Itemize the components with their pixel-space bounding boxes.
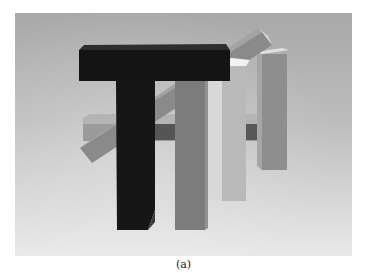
figure-caption: (a) — [0, 258, 367, 271]
rendered-blocks-image — [15, 13, 352, 256]
right-column — [257, 48, 289, 170]
figure: (a) — [0, 0, 367, 275]
gray-column — [175, 81, 208, 230]
